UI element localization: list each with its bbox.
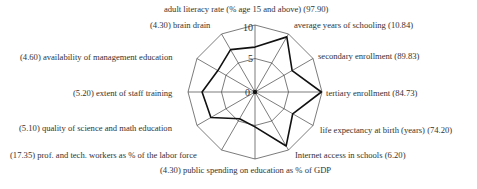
axis-label-adult-literacy: adult literacy rate (% age 15 and above)…: [164, 4, 328, 14]
tick-label-0: 0: [245, 87, 250, 98]
axis-label-prof-tech-workers: (17.35) prof. and tech. workers as % of …: [10, 150, 197, 160]
axis-label-staff-training: (5.20) extent of staff training: [73, 88, 172, 98]
axis-label-tertiary-enrollment: tertiary enrollment (84.73): [326, 88, 417, 98]
axis-label-life-expectancy: life expectancy at birth (years) (74.20): [320, 125, 452, 135]
axis-label-management-education: (4.60) availability of management educat…: [20, 52, 173, 62]
axis-label-brain-drain: (4.30) brain drain: [150, 20, 210, 30]
axis-label-avg-schooling: average years of schooling (10.84): [294, 20, 413, 30]
tick-label-5: 5: [248, 53, 253, 64]
radar-series: [202, 37, 321, 146]
axis-label-public-spending: (4.30) public spending on education as %…: [160, 165, 331, 175]
axis-label-science-math: (5.10) quality of science and math educa…: [19, 123, 172, 133]
axis-label-secondary-enrollment: secondary enrollment (89.83): [318, 51, 419, 61]
center-dot: [253, 90, 257, 94]
tick-label-10: 10: [243, 22, 253, 33]
axis-label-internet-access: Internet access in schools (6.20): [295, 150, 406, 160]
series-polygon: [202, 37, 321, 146]
